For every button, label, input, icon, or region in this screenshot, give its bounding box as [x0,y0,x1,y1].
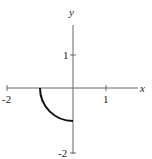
x-tick-label-1: 1 [103,93,109,105]
x-tick-label-minus2: -2 [2,93,11,105]
y-tick-label-1: 1 [63,49,69,61]
arc-curve [40,88,73,121]
x-axis-label: x [139,82,145,94]
y-tick-label-minus2: -2 [58,147,67,159]
y-axis-label: y [68,6,74,18]
chart: x y -2 1 1 -2 [0,0,152,159]
